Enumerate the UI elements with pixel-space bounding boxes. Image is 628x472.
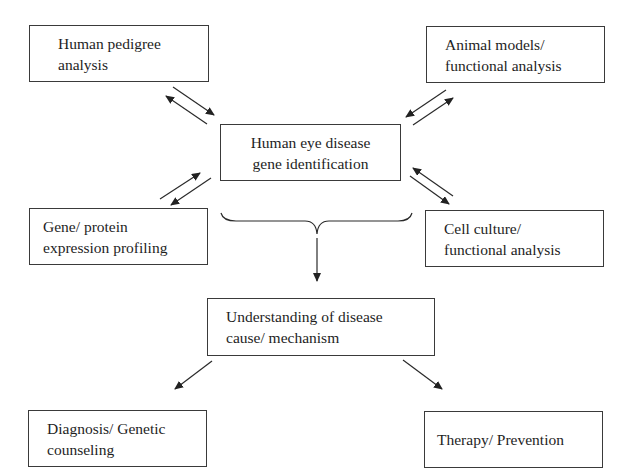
node-label: Human eye disease gene identification	[251, 132, 371, 174]
node-label: Animal models/ functional analysis	[445, 34, 562, 76]
node-understanding-disease-mechanism: Understanding of disease cause/ mechanis…	[207, 298, 435, 356]
node-label: Gene/ protein expression profiling	[43, 216, 167, 258]
curly-brace	[221, 213, 412, 234]
node-gene-protein-expression-profiling: Gene/ protein expression profiling	[29, 208, 208, 265]
node-label: Cell culture/ functional analysis	[444, 218, 561, 260]
node-therapy-prevention: Therapy/ Prevention	[424, 411, 603, 468]
arrow-understanding-to-diagnosis	[175, 361, 212, 389]
arrow-understanding-to-therapy	[403, 360, 442, 389]
node-human-pedigree-analysis: Human pedigree analysis	[29, 25, 209, 82]
node-label: Diagnosis/ Genetic counseling	[47, 418, 165, 460]
arrow-animal-to-center	[406, 90, 446, 117]
arrow-pedigree-to-center	[173, 87, 214, 115]
arrow-center-to-expression	[171, 178, 211, 205]
node-animal-models: Animal models/ functional analysis	[426, 26, 605, 83]
node-label: Human pedigree analysis	[58, 33, 161, 75]
node-human-eye-disease-gene-identification: Human eye disease gene identification	[220, 124, 401, 181]
arrow-center-to-animal	[413, 98, 453, 125]
arrow-expression-to-center	[160, 173, 200, 199]
node-label: Understanding of disease cause/ mechanis…	[226, 306, 383, 348]
arrow-center-to-pedigree	[166, 96, 207, 124]
node-diagnosis-genetic-counseling: Diagnosis/ Genetic counseling	[28, 410, 207, 467]
node-label: Therapy/ Prevention	[437, 429, 564, 450]
node-cell-culture: Cell culture/ functional analysis	[425, 210, 604, 267]
